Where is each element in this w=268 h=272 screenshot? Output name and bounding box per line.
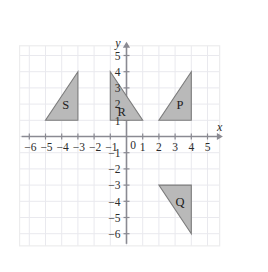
coordinate-plane-figure: −6−5−4−3−2−112345054321−1−2−3−4−5−6xySRP…: [0, 0, 268, 272]
y-tick-label--2: −2: [108, 163, 120, 175]
x-tick-label--4: −4: [57, 141, 69, 153]
y-tick-label-5: 5: [115, 50, 121, 62]
x-tick-label--6: −6: [24, 141, 36, 153]
coordinate-plane-svg: −6−5−4−3−2−112345054321−1−2−3−4−5−6xySRP…: [0, 0, 268, 272]
x-tick-label--2: −2: [89, 141, 101, 153]
x-tick-label-5: 5: [205, 141, 211, 153]
origin-label: 0: [130, 139, 136, 151]
x-tick-label-2: 2: [156, 141, 162, 153]
shape-label-p: P: [176, 98, 183, 112]
y-tick-label-4: 4: [115, 66, 121, 78]
shape-label-s: S: [62, 98, 69, 112]
x-tick-label-1: 1: [140, 141, 146, 153]
y-tick-label--6: −6: [108, 228, 120, 240]
y-tick-label-3: 3: [115, 82, 121, 94]
labels: −6−5−4−3−2−112345054321−1−2−3−4−5−6xySRP…: [24, 36, 223, 240]
x-tick-label--3: −3: [73, 141, 85, 153]
x-tick-label-3: 3: [172, 141, 178, 153]
x-tick-label--5: −5: [40, 141, 52, 153]
y-tick-label--1: −1: [108, 147, 120, 159]
x-tick-label-4: 4: [188, 141, 194, 153]
y-axis-name: y: [114, 36, 121, 50]
y-tick-label--3: −3: [108, 179, 120, 191]
shape-label-q: Q: [175, 195, 184, 209]
shape-label-r: R: [117, 105, 126, 119]
x-axis-name: x: [216, 120, 223, 134]
y-tick-label--4: −4: [108, 196, 120, 208]
y-tick-label--5: −5: [108, 212, 120, 224]
